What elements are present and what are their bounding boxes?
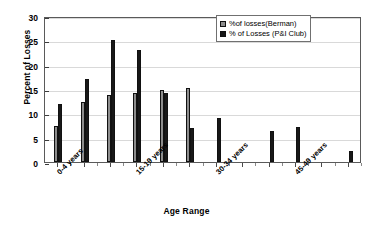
x-axis-title: Age Range: [0, 206, 373, 216]
x-tick-mark: [269, 163, 270, 167]
y-tick-label: 10: [0, 111, 38, 120]
bar-pni-club: [349, 151, 353, 162]
x-tick-mark: [321, 163, 322, 167]
bar-pni-club: [137, 50, 141, 162]
bar-group: [177, 18, 203, 162]
plot-area: 051015202530: [44, 17, 361, 163]
legend-label-pni-club: % of Losses (P&I Club): [229, 30, 307, 38]
bar-pni-club: [296, 127, 300, 162]
legend-item-berman: %of losses(Berman): [220, 19, 307, 28]
y-tick-mark: [45, 42, 49, 43]
bar-pni-club: [217, 118, 221, 162]
x-tick-mark-minor: [361, 163, 362, 166]
x-tick-mark: [110, 163, 111, 167]
bar-group: [71, 18, 97, 162]
y-tick-label: 15: [0, 87, 38, 96]
chart-legend: %of losses(Berman) % of Losses (P&I Club…: [216, 15, 311, 42]
bar-chart: Percent of Losses 051015202530 Age Range…: [0, 0, 373, 229]
bar-pni-club: [58, 104, 62, 162]
y-tick-mark: [45, 91, 49, 92]
x-tick-mark: [242, 163, 243, 167]
legend-item-pni-club: % of Losses (P&I Club): [220, 29, 307, 38]
bar-group: [98, 18, 124, 162]
x-tick-mark: [189, 163, 190, 167]
x-tick-mark-minor: [123, 163, 124, 166]
bar-pni-club: [270, 131, 274, 162]
x-tick-mark: [163, 163, 164, 167]
bar-pni-club: [190, 128, 194, 162]
y-tick-mark: [45, 115, 49, 116]
legend-label-berman: %of losses(Berman): [229, 20, 297, 28]
x-tick-mark: [348, 163, 349, 167]
legend-swatch-berman: [220, 21, 226, 27]
x-tick-mark-minor: [335, 163, 336, 166]
y-tick-label: 25: [0, 38, 38, 47]
y-tick-label: 30: [0, 14, 38, 23]
y-tick-mark: [45, 67, 49, 68]
legend-swatch-pni-club: [220, 31, 226, 37]
x-tick-mark-minor: [255, 163, 256, 166]
x-axis-ticks: [44, 163, 361, 168]
bar-pni-club: [111, 40, 115, 162]
x-tick-mark-minor: [97, 163, 98, 166]
y-tick-mark: [45, 18, 49, 19]
x-tick-mark-minor: [176, 163, 177, 166]
y-tick-label: 5: [0, 136, 38, 145]
x-tick-mark-minor: [282, 163, 283, 166]
y-tick-label: 20: [0, 63, 38, 72]
y-tick-label: 0: [0, 160, 38, 169]
bar-group: [124, 18, 150, 162]
x-tick-mark-minor: [203, 163, 204, 166]
bar-series-container: [45, 18, 360, 162]
y-tick-mark: [45, 140, 49, 141]
bar-pni-club: [85, 79, 89, 162]
x-tick-mark: [84, 163, 85, 167]
bar-group: [336, 18, 362, 162]
